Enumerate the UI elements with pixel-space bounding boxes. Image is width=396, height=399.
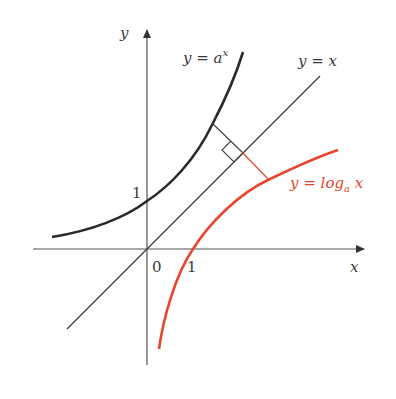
exponential-label: y = ax: [182, 47, 229, 67]
right-angle-marker: [222, 141, 243, 162]
y-tick-1-label: 1: [132, 184, 142, 202]
origin-label: 0: [152, 258, 162, 276]
perpendicular-segment-black: [213, 124, 242, 152]
logarithm-label: y = loga x: [289, 174, 364, 194]
y-axis-label: y: [119, 24, 129, 42]
identity-line: [67, 76, 320, 329]
perpendicular-segment-red: [242, 152, 268, 179]
function-graph: y x 0 1 1 y = ax y = x y = loga x: [0, 0, 396, 399]
identity-label: y = x: [297, 52, 338, 70]
x-axis-label: x: [350, 258, 359, 276]
x-tick-1-label: 1: [187, 258, 197, 276]
